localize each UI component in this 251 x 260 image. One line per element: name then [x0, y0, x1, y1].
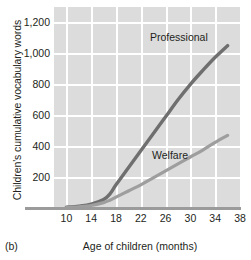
x-tick-label: 26: [160, 212, 172, 224]
x-tick-label: 14: [85, 212, 97, 224]
y-tick-label: 600: [4, 109, 50, 121]
series-label-professional: Professional: [150, 31, 208, 43]
series-annotations: Professional Welfare: [54, 7, 240, 208]
x-axis-title: Age of children (months): [40, 240, 240, 252]
plot-area: Professional Welfare: [54, 7, 240, 208]
x-tick-label: 38: [234, 212, 246, 224]
y-tick-label: 1,200: [4, 16, 50, 28]
gridline-vertical: [240, 7, 242, 208]
y-tick-label: 800: [4, 78, 50, 90]
panel-caption: (b): [5, 240, 18, 252]
x-axis-baseline: [25, 207, 241, 210]
x-tick-label: 30: [185, 212, 197, 224]
x-tick-label: 18: [110, 212, 122, 224]
vocabulary-growth-chart: Children's cumulative vocabulary words 2…: [0, 0, 251, 260]
x-tick-label: 34: [209, 212, 221, 224]
y-tick-label: 200: [4, 171, 50, 183]
x-tick-label: 10: [61, 212, 73, 224]
y-tick-label: 1,000: [4, 47, 50, 59]
x-tick-label: 22: [135, 212, 147, 224]
y-tick-label: 400: [4, 140, 50, 152]
y-axis-tick-labels: 2004006008001,0001,200: [4, 7, 50, 208]
series-label-welfare: Welfare: [152, 149, 188, 161]
x-axis-tick-labels: 1014182226303438: [54, 212, 240, 228]
